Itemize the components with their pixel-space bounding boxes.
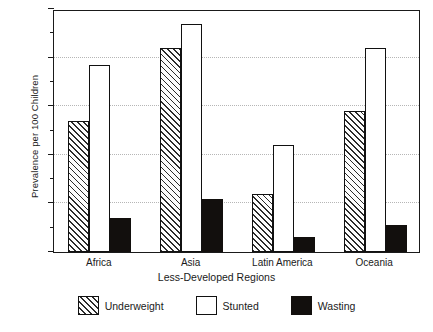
bar-stunted-africa [89, 65, 110, 252]
bar-wasting-africa [110, 218, 131, 252]
x-tick-label: Latin America [252, 257, 313, 268]
bar-underweight-oceania [344, 111, 365, 252]
y-tick-minor [50, 227, 54, 228]
legend-item-stunted: Stunted [196, 296, 259, 315]
y-tick-minor [50, 32, 54, 33]
bar-underweight-asia [160, 48, 181, 252]
bar-underweight-latin-america [252, 194, 273, 252]
legend-swatch-stunted [196, 296, 217, 315]
bar-wasting-asia [202, 199, 223, 252]
y-tick-minor [50, 81, 54, 82]
bar-stunted-latin-america [273, 145, 294, 252]
bar-wasting-oceania [386, 225, 407, 252]
bar-wasting-latin-america [294, 237, 315, 252]
legend-label-stunted: Stunted [223, 300, 259, 312]
legend-label-wasting: Wasting [318, 300, 356, 312]
y-tick-major [48, 57, 54, 58]
y-tick-minor [50, 130, 54, 131]
y-tick-minor [50, 178, 54, 179]
plot-inner: 01020304050 [54, 11, 419, 252]
chart-legend: Underweight Stunted Wasting [0, 296, 433, 315]
legend-label-underweight: Underweight [105, 300, 164, 312]
x-axis-title: Less-Developed Regions [0, 271, 433, 283]
x-tick-label: Africa [86, 257, 112, 268]
legend-item-underweight: Underweight [78, 296, 164, 315]
legend-swatch-wasting [291, 296, 312, 315]
y-axis-title: Prevalence per 100 Children [29, 47, 40, 227]
bar-chart-figure: Prevalence per 100 Children 01020304050 … [0, 0, 433, 332]
y-tick-major [48, 105, 54, 106]
x-tick-label: Oceania [356, 257, 393, 268]
bar-stunted-oceania [365, 48, 386, 252]
bar-stunted-asia [181, 24, 202, 252]
legend-swatch-underweight [78, 296, 99, 315]
y-tick-major [48, 202, 54, 203]
y-tick-major [48, 8, 54, 9]
plot-area: 01020304050 [53, 10, 420, 253]
legend-item-wasting: Wasting [291, 296, 356, 315]
x-tick-label: Asia [181, 257, 200, 268]
y-tick-major [48, 154, 54, 155]
bar-underweight-africa [68, 121, 89, 252]
y-tick-major [48, 251, 54, 252]
